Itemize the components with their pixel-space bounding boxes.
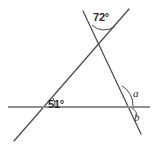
label-right-lower-angle: b bbox=[134, 112, 140, 123]
geometry-figure: 72° 51° a b bbox=[0, 0, 156, 147]
transversal-left-line bbox=[14, 9, 129, 141]
label-left-angle: 51° bbox=[48, 99, 64, 110]
label-right-upper-angle: a bbox=[133, 88, 139, 99]
label-top-angle: 72° bbox=[93, 12, 109, 23]
diagram-canvas bbox=[0, 0, 156, 147]
